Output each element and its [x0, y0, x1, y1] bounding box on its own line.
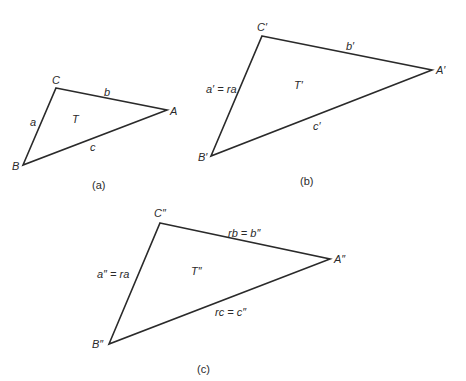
triangle-t-double-prime — [109, 223, 330, 344]
triangle-t-prime — [211, 36, 432, 156]
side-b-prime: b′ — [346, 40, 355, 52]
side-b-double-prime: rb = b″ — [228, 227, 261, 239]
side-c: c — [90, 141, 96, 153]
vertex-a-prime: A′ — [435, 64, 446, 76]
side-c-double-prime: rc = c″ — [215, 306, 247, 318]
side-a-prime: a′ = ra — [206, 83, 237, 95]
side-b: b — [104, 86, 110, 98]
triangle-label-t-double-prime: T″ — [191, 265, 203, 277]
side-a: a — [30, 116, 36, 128]
figure-b: C′ A′ B′ b′ a′ = ra c′ T′ (b) — [198, 21, 446, 187]
vertex-a: A — [169, 105, 177, 117]
triangle-label-t-prime: T′ — [294, 79, 304, 91]
vertex-a-double-prime: A″ — [333, 253, 346, 265]
caption-a: (a) — [92, 179, 105, 191]
figure-a: C A B b a c T (a) — [12, 74, 177, 191]
vertex-c-prime: C′ — [257, 21, 268, 33]
vertex-c-double-prime: C″ — [154, 207, 167, 219]
side-a-double-prime: a″ = ra — [97, 268, 129, 280]
vertex-c: C — [52, 74, 60, 86]
caption-c: (c) — [197, 363, 210, 375]
triangle-t — [23, 88, 167, 165]
vertex-b-prime: B′ — [198, 151, 208, 163]
figure-c: C″ A″ B″ rb = b″ a″ = ra rc = c″ T″ (c) — [92, 207, 346, 375]
similar-triangles-diagram: C A B b a c T (a) C′ A′ B′ b′ a′ = ra c′… — [0, 0, 466, 381]
vertex-b-double-prime: B″ — [92, 338, 104, 350]
side-c-prime: c′ — [313, 120, 322, 132]
vertex-b: B — [12, 160, 19, 172]
caption-b: (b) — [300, 175, 313, 187]
triangle-label-t: T — [72, 113, 80, 125]
